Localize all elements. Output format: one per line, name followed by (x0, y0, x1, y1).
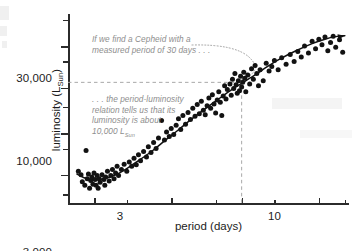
data-point (146, 144, 151, 149)
data-point (149, 150, 154, 155)
data-point (136, 152, 141, 157)
data-point (279, 55, 284, 60)
data-point (267, 69, 272, 74)
data-point (247, 82, 252, 87)
data-point (288, 52, 293, 57)
data-point (269, 64, 274, 69)
data-point (124, 169, 129, 174)
data-point (219, 113, 224, 118)
y-axis-title-close: ) (50, 68, 62, 72)
data-point (236, 78, 241, 83)
data-point (337, 37, 342, 42)
data-point (195, 102, 200, 107)
data-point (272, 58, 277, 63)
data-point (193, 114, 198, 119)
data-point (208, 106, 213, 111)
data-point (154, 146, 159, 151)
scan-artifact (0, 26, 7, 36)
data-point (144, 154, 149, 159)
data-point (253, 63, 258, 68)
data-point (115, 164, 120, 169)
data-point (138, 158, 143, 163)
annotation-luminosity-subscript: Sun (125, 131, 135, 137)
data-point (261, 78, 266, 83)
annotation-luminosity-text: . . . the period-luminosity relation tel… (92, 94, 184, 136)
data-point (276, 67, 281, 72)
data-point (230, 77, 235, 82)
data-point (210, 92, 215, 97)
data-point (84, 148, 89, 153)
data-point (183, 122, 188, 127)
data-point (82, 183, 87, 188)
data-point (119, 167, 124, 172)
y-axis-title: luminosity (LSun) (50, 68, 65, 150)
y-tick-major: 1,000 (61, 175, 68, 177)
data-point (331, 34, 336, 39)
data-point (232, 71, 237, 76)
data-point (186, 110, 191, 115)
data-point (79, 172, 84, 177)
annotation-period-note: If we find a Cepheid with a measured per… (92, 34, 210, 55)
data-point (102, 183, 107, 188)
data-point (127, 160, 132, 165)
data-point (313, 46, 318, 51)
data-point (310, 39, 315, 44)
y-tick-label: 30,000 (16, 72, 52, 84)
data-point (141, 149, 146, 154)
data-point (212, 101, 217, 106)
data-point (105, 169, 110, 174)
data-point (218, 100, 223, 105)
data-point (325, 48, 330, 53)
y-tick-label: 10,000 (16, 155, 52, 167)
data-point (239, 84, 244, 89)
data-point (256, 83, 261, 88)
data-point (216, 89, 221, 94)
data-point (264, 61, 269, 66)
data-point (319, 42, 324, 47)
data-point (129, 164, 134, 169)
data-point (245, 72, 250, 77)
data-point (213, 111, 218, 116)
data-point (227, 82, 232, 87)
data-point (87, 186, 92, 191)
data-point (254, 71, 259, 76)
data-point (316, 37, 321, 42)
data-point (258, 67, 263, 72)
data-point (122, 162, 127, 167)
scan-artifact (0, 6, 9, 20)
data-point (116, 173, 121, 178)
scan-artifact (2, 41, 7, 48)
data-point (299, 54, 304, 59)
data-point (322, 35, 327, 40)
data-point (229, 93, 234, 98)
data-point (224, 97, 229, 102)
cepheid-period-luminosity-figure: 1,0003,00010,00030,000 31030100 If we fi… (0, 0, 357, 251)
data-point (134, 162, 139, 167)
y-tick-label: 3,000 (23, 246, 52, 251)
annotation-luminosity-note: . . . the period-luminosity relation tel… (92, 94, 184, 140)
data-point (295, 49, 300, 54)
data-point (203, 112, 208, 117)
data-point (225, 87, 230, 92)
data-point (199, 99, 204, 104)
data-point (96, 186, 101, 191)
plot-area: 1,0003,00010,00030,000 31030100 If we fi… (68, 14, 349, 205)
data-point (243, 89, 248, 94)
data-point (306, 50, 311, 55)
x-axis-title: period (days) (68, 220, 349, 232)
data-point (107, 178, 112, 183)
data-point (340, 50, 345, 55)
data-point (251, 77, 256, 82)
data-point (302, 44, 307, 49)
y-axis-title-subscript: Sun (56, 72, 65, 86)
data-point (292, 59, 297, 64)
data-point (103, 175, 108, 180)
data-point (151, 140, 156, 145)
data-point (284, 62, 289, 67)
data-point (112, 176, 117, 181)
y-axis-title-text: luminosity (L (50, 86, 62, 151)
y-tick-major: 30,000 (61, 46, 68, 48)
data-point (197, 111, 202, 116)
data-point (190, 106, 195, 111)
data-point (201, 108, 206, 113)
